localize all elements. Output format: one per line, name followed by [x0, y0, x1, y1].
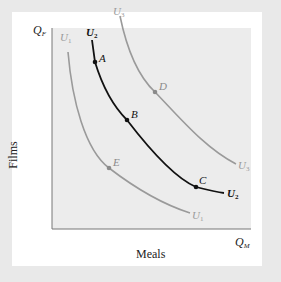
point-a-label: A: [98, 52, 106, 64]
point-b-marker: [125, 118, 130, 123]
point-e-label: E: [112, 156, 120, 168]
point-d-label: D: [158, 80, 167, 92]
point-b-label: B: [131, 108, 138, 120]
y-axis-label: Films: [6, 110, 22, 200]
point-a-marker: [93, 60, 98, 65]
plot-area: [52, 28, 251, 229]
indifference-curve-diagram: A B C D E U1 U1 U2 U2 U3 U3 QF QM: [0, 0, 281, 282]
x-axis-label: Meals: [136, 247, 165, 262]
point-c-marker: [194, 185, 199, 190]
point-c-label: C: [199, 174, 207, 186]
curve-u3-top-label: U3: [113, 5, 125, 19]
y-axis-symbol: QF: [33, 23, 47, 38]
x-axis-symbol: QM: [235, 235, 251, 250]
point-e-marker: [107, 166, 112, 171]
point-d-marker: [153, 90, 158, 95]
